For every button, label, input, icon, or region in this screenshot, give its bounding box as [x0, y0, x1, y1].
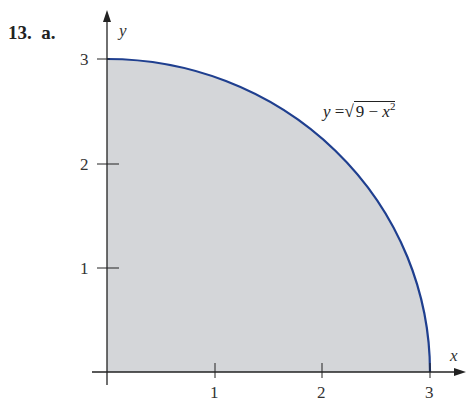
y-tick-label-2: 2: [80, 155, 89, 174]
exponent: 2: [390, 100, 396, 112]
y-tick-label-3: 3: [80, 50, 89, 69]
x-tick-label-2: 2: [317, 383, 326, 401]
x-axis-arrow-icon: [454, 368, 466, 376]
x-axis-label: x: [449, 346, 458, 365]
radicand-constant: 9: [356, 102, 365, 121]
y-axis-arrow-icon: [103, 10, 111, 22]
minus-sign: −: [368, 102, 378, 121]
eq-sign: =: [335, 102, 345, 121]
x-tick-label-3: 3: [425, 383, 434, 401]
y-axis-label: y: [117, 21, 127, 40]
equation-label: y =√9 − x2: [323, 100, 395, 122]
radicand-variable: x: [382, 102, 390, 121]
radicand: 9 − x2: [354, 101, 396, 121]
graph: 1 2 3 1 2 3 y x: [0, 0, 470, 401]
eq-lhs: y: [323, 102, 331, 121]
x-tick-label-1: 1: [210, 383, 219, 401]
radical-icon: √: [344, 102, 353, 121]
y-tick-label-1: 1: [80, 259, 89, 278]
